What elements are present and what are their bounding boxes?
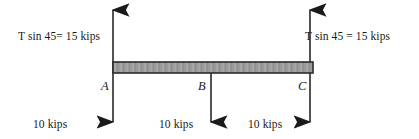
beam-member <box>113 62 313 73</box>
point-label-c: C <box>298 80 306 93</box>
load-label-b: 10 kips <box>159 119 193 131</box>
point-label-a: A <box>101 80 109 93</box>
tension-label-right: T sin 45 = 15 kips <box>305 31 390 43</box>
free-body-diagram: T sin 45= 15 kips T sin 45 = 15 kips A B… <box>0 0 419 139</box>
load-label-c: 10 kips <box>248 119 282 131</box>
tension-label-left: T sin 45= 15 kips <box>18 31 100 43</box>
point-label-b: B <box>198 80 206 93</box>
load-label-a: 10 kips <box>33 119 67 131</box>
